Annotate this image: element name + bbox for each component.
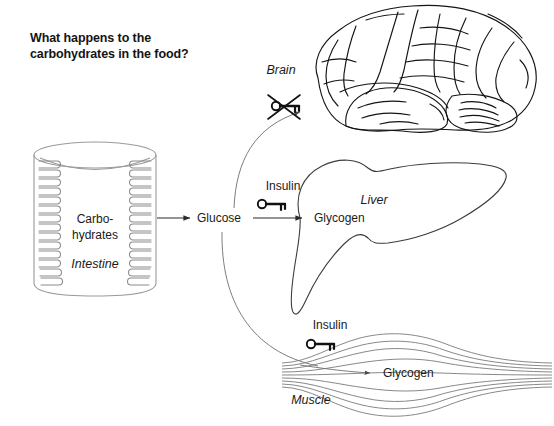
carbohydrate-metabolism-diagram: What happens to the carbohydrates in the… xyxy=(0,0,554,426)
liver-label: Liver xyxy=(360,193,388,207)
insulin-muscle-label: Insulin xyxy=(313,318,348,332)
page-title-line-1: What happens to the xyxy=(30,31,151,45)
muscle-glycogen-label: Glycogen xyxy=(383,366,434,380)
insulin-liver-label: Insulin xyxy=(266,179,301,193)
carbohydrates-label-line-1: Carbo- xyxy=(77,212,114,226)
brain-label: Brain xyxy=(266,63,295,77)
intestine-label: Intestine xyxy=(71,257,118,271)
glucose-label: Glucose xyxy=(197,211,241,225)
page-title-line-2: carbohydrates in the food? xyxy=(30,47,189,61)
carbohydrates-label-line-2: hydrates xyxy=(72,228,118,242)
muscle-label: Muscle xyxy=(291,393,331,407)
liver-glycogen-label: Glycogen xyxy=(314,211,365,225)
diagram-canvas: What happens to the carbohydrates in the… xyxy=(0,0,554,426)
